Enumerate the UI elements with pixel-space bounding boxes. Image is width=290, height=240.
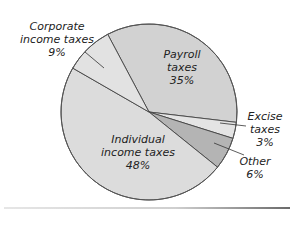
payroll-label-line1: Payroll <box>150 48 214 61</box>
label-payroll: Payroll taxes 35% <box>150 48 214 87</box>
individual-label-value: 48% <box>95 159 181 172</box>
excise-label-value: 3% <box>243 136 287 149</box>
payroll-label-line2: taxes <box>150 61 214 74</box>
excise-label-line2: taxes <box>243 123 287 136</box>
individual-label-line1: Individual <box>95 133 181 146</box>
label-corporate: Corporate income taxes 9% <box>14 20 100 59</box>
corporate-label-value: 9% <box>14 46 100 59</box>
label-other: Other 6% <box>235 155 275 181</box>
label-individual: Individual income taxes 48% <box>95 133 181 172</box>
payroll-label-value: 35% <box>150 74 214 87</box>
bottom-rule <box>4 207 290 209</box>
individual-label-line2: income taxes <box>95 146 181 159</box>
other-label-line1: Other <box>235 155 275 168</box>
corporate-label-line2: income taxes <box>14 33 100 46</box>
excise-label-line1: Excise <box>243 110 287 123</box>
label-excise: Excise taxes 3% <box>243 110 287 149</box>
corporate-label-line1: Corporate <box>14 20 100 33</box>
other-label-value: 6% <box>235 168 275 181</box>
